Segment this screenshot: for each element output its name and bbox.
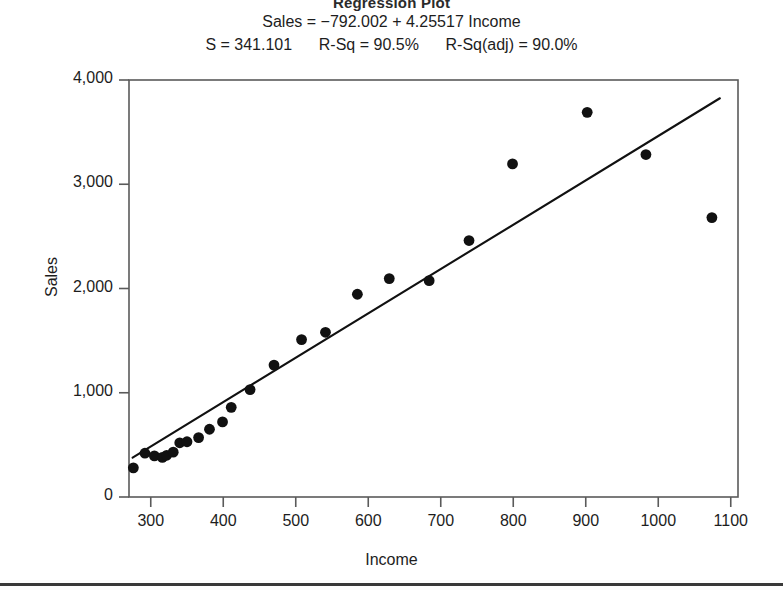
data-point: [204, 424, 215, 435]
x-axis-tick-label-800: 800: [478, 512, 548, 530]
data-point: [464, 235, 475, 246]
data-point: [384, 273, 395, 284]
x-axis-tick-label-400: 400: [188, 512, 258, 530]
scatter-plot-canvas: [0, 0, 783, 593]
x-axis-tick-label-700: 700: [406, 512, 476, 530]
data-point: [424, 275, 435, 286]
x-axis-tick-label-600: 600: [333, 512, 403, 530]
y-axis-tick-label-1000: 1,000: [27, 382, 113, 400]
data-point: [296, 334, 307, 345]
y-axis-tick-label-2000: 2,000: [27, 278, 113, 296]
x-axis-tick-label-1000: 1000: [623, 512, 693, 530]
data-point: [641, 149, 652, 160]
y-axis-tick-label-0: 0: [27, 486, 113, 504]
data-point: [507, 159, 518, 170]
data-point: [182, 436, 193, 447]
x-axis-tick-label-300: 300: [116, 512, 186, 530]
data-point: [352, 289, 363, 300]
x-axis-tick-label-500: 500: [261, 512, 331, 530]
data-point: [707, 212, 718, 223]
footer-rule: [0, 583, 783, 586]
data-point: [582, 107, 593, 118]
data-point: [217, 417, 228, 428]
data-point: [226, 402, 237, 413]
data-point: [128, 462, 139, 473]
data-point: [245, 384, 256, 395]
y-axis-tick-label-4000: 4,000: [27, 69, 113, 87]
x-axis-tick-label-900: 900: [551, 512, 621, 530]
regression-plot-figure: Regression Plot Sales = −792.002 + 4.255…: [0, 0, 783, 593]
y-axis-tick-label-3000: 3,000: [27, 173, 113, 191]
data-point: [168, 447, 179, 458]
data-point: [320, 327, 331, 338]
data-point: [140, 448, 151, 459]
data-point: [269, 360, 280, 371]
data-point: [193, 432, 204, 443]
x-axis-tick-label-1100: 1100: [696, 512, 766, 530]
